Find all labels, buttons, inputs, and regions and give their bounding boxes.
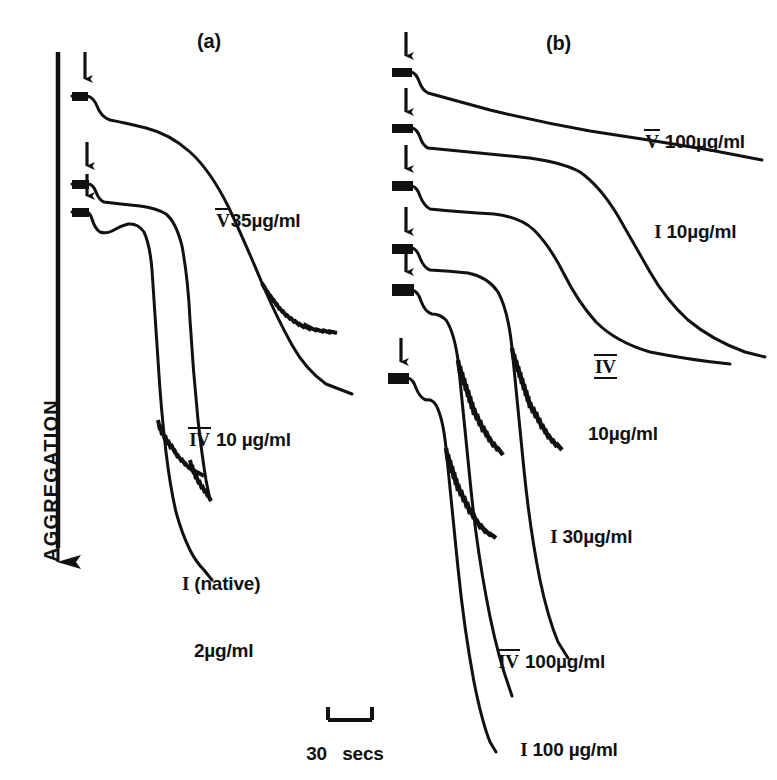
roman-numeral-IV: IV: [497, 649, 520, 672]
qualifier-text: (native): [194, 573, 260, 594]
roman-numeral-I: I: [520, 739, 527, 760]
trace-label-a-V35: V35µg/ml: [205, 189, 300, 232]
roman-numeral-I: I: [550, 526, 557, 547]
trace-label-b-IV100: IV 100µg/ml: [487, 630, 605, 673]
trace-label-a-IV10: IV 10 µg/ml: [178, 408, 291, 451]
trace-label-line1: IV: [588, 356, 658, 378]
trace-label-b-IV10: IV 10µg/ml: [588, 311, 658, 468]
concentration-text: 100 µg/ml: [532, 739, 617, 760]
roman-numeral-I: I: [654, 221, 661, 242]
panel-a-trace-noise: [158, 283, 337, 501]
roman-numeral-V: V: [215, 208, 231, 231]
concentration-text: 100µg/ml: [525, 651, 605, 672]
trace-label-b-I30: I 30µg/ml: [540, 505, 632, 548]
panel-a-title: (a): [197, 30, 221, 52]
scale-bar-value: 30: [306, 743, 327, 764]
scale-bar-label: 30 secs: [296, 722, 384, 765]
roman-numeral-V: V: [644, 129, 660, 152]
roman-numeral-I: I: [182, 573, 189, 594]
time-scale-bar: [328, 707, 372, 720]
roman-numeral-IV: IV: [188, 427, 211, 450]
concentration-text: 10 µg/ml: [216, 429, 291, 450]
axis-title-aggregation: AGGREGATION: [40, 399, 62, 562]
trace-label-b-V100: V 100µg/ml: [634, 110, 745, 153]
trace-label-line1: I (native): [182, 573, 260, 595]
panel-b-addition-arrows: [401, 32, 406, 362]
scale-bar-unit: secs: [342, 743, 383, 764]
trace-label-line2: 10µg/ml: [588, 423, 658, 445]
concentration-text: 30µg/ml: [562, 526, 632, 547]
panel-b-title: (b): [546, 32, 571, 54]
trace-label-b-I10: I 10µg/ml: [644, 200, 736, 243]
panel-a-traces: [72, 92, 352, 580]
trace-label-b-I100: I 100 µg/ml: [510, 718, 618, 761]
trace-label-line2: 2µg/ml: [182, 640, 260, 662]
concentration-text: 10µg/ml: [666, 221, 736, 242]
concentration-text: 100µg/ml: [665, 131, 745, 152]
concentration-text: 35µg/ml: [231, 210, 301, 231]
trace-label-a-I-native-2: I (native) 2µg/ml: [182, 528, 260, 685]
roman-numeral-IV: IV: [594, 354, 617, 379]
